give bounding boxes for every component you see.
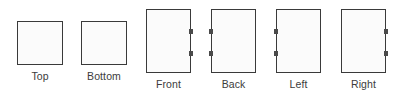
panel-outline-back	[211, 9, 256, 73]
panel-figure-right: Right	[341, 9, 386, 73]
panel-outline-top	[17, 21, 63, 65]
tab-mark-right-1	[384, 29, 388, 34]
panel-outline-bottom	[81, 21, 127, 65]
tab-mark-left-1	[274, 29, 278, 34]
tab-mark-front-2	[189, 51, 193, 56]
panel-label-front: Front	[156, 78, 181, 90]
tab-mark-back-1	[209, 29, 213, 34]
panel-layout-diagram: TopBottomFrontBackLeftRight	[0, 0, 399, 105]
panel-figure-back: Back	[211, 9, 256, 73]
tab-mark-right-2	[384, 51, 388, 56]
tab-mark-left-2	[274, 51, 278, 56]
panel-label-top: Top	[31, 70, 48, 82]
panel-figure-left: Left	[276, 9, 321, 73]
tab-mark-back-2	[209, 51, 213, 56]
panel-figure-top: Top	[17, 21, 63, 65]
panel-figure-bottom: Bottom	[81, 21, 127, 65]
panel-outline-right	[341, 9, 386, 73]
panel-figure-front: Front	[146, 9, 191, 73]
panel-outline-front	[146, 9, 191, 73]
panel-outline-left	[276, 9, 321, 73]
panel-label-right: Right	[351, 78, 376, 90]
panel-label-back: Back	[222, 78, 246, 90]
panel-label-left: Left	[290, 78, 308, 90]
panel-label-bottom: Bottom	[87, 70, 121, 82]
tab-mark-front-1	[189, 29, 193, 34]
